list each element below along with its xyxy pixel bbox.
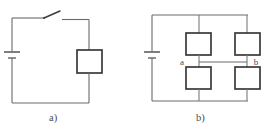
circuit-b-caption: b) (196, 112, 205, 124)
circuit-a-caption: a) (49, 112, 58, 124)
switch-pivot-icon (43, 17, 45, 19)
resistor[interactable] (77, 50, 102, 73)
resistor[interactable] (186, 67, 211, 89)
node-label-b: b (254, 57, 259, 67)
circuit-a-group: a) (4, 11, 102, 124)
circuit-figure: a) a (0, 0, 265, 133)
circuit-diagram-canvas: a) a (0, 0, 265, 133)
switch-icon[interactable] (44, 11, 60, 18)
circuit-b-group: a b b) (144, 15, 260, 124)
resistor[interactable] (235, 67, 260, 89)
resistor[interactable] (186, 33, 211, 55)
node-label-a: a (180, 57, 184, 67)
resistor[interactable] (235, 33, 260, 55)
